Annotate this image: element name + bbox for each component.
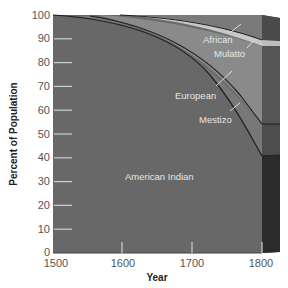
x-tick-1500: 1500: [44, 257, 68, 269]
x-tick-1600: 1600: [111, 257, 135, 269]
y-tick-50: 50: [38, 128, 50, 140]
y-tick-30: 30: [38, 175, 50, 187]
y-tick-100: 100: [32, 9, 50, 21]
y-axis-title: Percent of Population: [8, 82, 19, 185]
x-tick-1800: 1800: [249, 257, 273, 269]
label-european: European: [175, 90, 216, 101]
side-box: [262, 15, 280, 253]
y-tick-80: 80: [38, 56, 50, 68]
y-tick-10: 10: [38, 223, 50, 235]
population-area-chart: 0 10 20 30 40 50 60 70 80 90 100 Percent…: [0, 0, 288, 288]
y-tick-40: 40: [38, 151, 50, 163]
y-tick-70: 70: [38, 80, 50, 92]
y-tick-20: 20: [38, 199, 50, 211]
label-american-indian: American Indian: [125, 171, 194, 182]
label-mestizo: Mestizo: [199, 114, 232, 125]
x-tick-1700: 1700: [180, 257, 204, 269]
x-axis-title: Year: [146, 272, 167, 283]
label-mulatto: Mulatto: [214, 48, 245, 59]
y-tick-90: 90: [38, 32, 50, 44]
y-tick-60: 60: [38, 104, 50, 116]
label-african: African: [203, 34, 233, 45]
